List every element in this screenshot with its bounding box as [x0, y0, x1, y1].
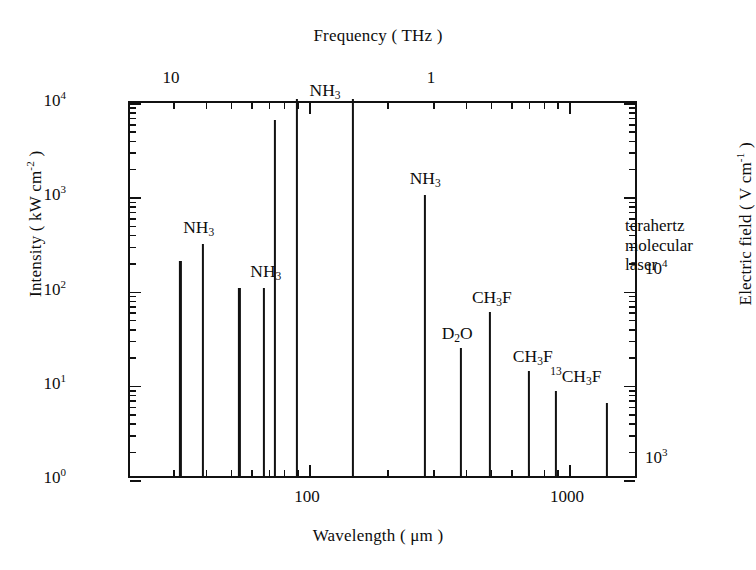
spectral-line	[263, 288, 265, 477]
tick-mark	[629, 118, 635, 120]
tick-mark	[629, 341, 635, 343]
tick-mark	[624, 480, 635, 482]
tick-mark	[130, 263, 136, 265]
tick-mark	[231, 103, 233, 109]
spectral-line	[424, 195, 426, 476]
spectral-line	[296, 99, 298, 476]
plot-area: terahertzmolecularlaser	[128, 101, 637, 478]
tick-mark	[206, 103, 208, 109]
tick-mark	[130, 103, 141, 105]
tick-mark	[130, 206, 136, 208]
tick-mark	[569, 465, 571, 476]
tick-mark	[624, 386, 635, 388]
tick-mark	[544, 470, 546, 476]
tick-mark	[387, 470, 389, 476]
tick-mark	[624, 103, 635, 105]
tick-mark	[130, 235, 136, 237]
tick-mark	[130, 197, 141, 199]
tick-mark	[130, 312, 136, 314]
x-tick-label: 100	[294, 487, 320, 507]
tick-mark	[491, 470, 493, 476]
tick-mark	[231, 470, 233, 476]
electric-field-tick-label: 104	[645, 259, 668, 279]
spectral-line	[555, 391, 557, 476]
spectral-line	[460, 348, 462, 476]
tick-mark	[629, 400, 635, 402]
terahertz-laser-spectrum-figure: Frequency ( THz ) Intensity ( kW cm-2 ) …	[0, 0, 756, 570]
tick-mark	[629, 202, 635, 204]
species-label-d2o: D2O	[442, 324, 473, 342]
tick-mark	[173, 470, 175, 476]
tick-mark	[433, 103, 435, 109]
tick-mark	[309, 465, 311, 476]
tick-mark	[269, 103, 271, 109]
tick-mark	[284, 103, 286, 109]
spectral-line	[274, 120, 276, 476]
tick-mark	[511, 103, 513, 109]
tick-mark	[629, 452, 635, 454]
tick-mark	[269, 470, 271, 476]
tick-mark	[629, 407, 635, 409]
tick-mark	[251, 103, 253, 109]
spectral-line	[528, 371, 530, 476]
tick-mark	[629, 296, 635, 298]
tick-mark	[569, 103, 571, 114]
tick-mark	[130, 407, 136, 409]
tick-mark	[629, 395, 635, 397]
species-label-nh3: NH3	[250, 262, 281, 280]
tick-mark	[629, 212, 635, 214]
tick-mark	[629, 112, 635, 114]
tick-mark	[624, 292, 635, 294]
tick-mark	[130, 395, 136, 397]
tick-mark	[629, 169, 635, 171]
species-label-nh3: NH3	[310, 81, 341, 99]
tick-mark	[130, 141, 136, 143]
tick-mark	[130, 329, 136, 331]
tick-mark	[130, 306, 136, 308]
tick-mark	[629, 107, 635, 109]
tick-mark	[624, 197, 635, 199]
spectral-line	[202, 244, 204, 476]
tick-mark	[130, 357, 136, 359]
x-tick-label: 1000	[550, 487, 584, 507]
species-label-ch3f: CH3F	[472, 288, 512, 306]
tick-mark	[130, 320, 136, 322]
tick-mark	[629, 306, 635, 308]
bottom-axis-title: Wavelength ( μm )	[0, 526, 756, 546]
tick-mark	[466, 103, 468, 109]
tick-mark	[130, 169, 136, 171]
tick-mark	[130, 107, 136, 109]
tick-mark	[629, 329, 635, 331]
tick-mark	[466, 470, 468, 476]
tick-mark	[130, 414, 136, 416]
tick-mark	[130, 112, 136, 114]
tick-mark	[130, 435, 136, 437]
tick-mark	[529, 103, 531, 109]
frequency-tick-label: 1	[427, 68, 436, 88]
spectral-line	[352, 99, 354, 476]
tick-mark	[130, 480, 141, 482]
tick-mark	[629, 124, 635, 126]
species-label-13ch3f: 13CH3F	[550, 367, 601, 385]
tick-mark	[130, 118, 136, 120]
spectral-line	[179, 261, 181, 476]
tick-mark	[511, 470, 513, 476]
spectral-line	[489, 312, 491, 476]
species-label-nh3: NH3	[183, 218, 214, 236]
top-axis-title: Frequency ( THz )	[0, 26, 756, 46]
frequency-tick-label: 10	[163, 68, 180, 88]
y-tick-label: 103	[44, 185, 67, 205]
tick-mark	[629, 206, 635, 208]
electric-field-tick-label: 103	[645, 448, 668, 468]
tick-mark	[629, 301, 635, 303]
species-label-ch3f: CH3F	[513, 347, 553, 365]
tick-mark	[629, 423, 635, 425]
tick-mark	[130, 386, 141, 388]
tick-mark	[544, 103, 546, 109]
tick-mark	[629, 312, 635, 314]
tick-mark	[557, 103, 559, 109]
tick-mark	[130, 296, 136, 298]
tick-mark	[130, 152, 136, 154]
tick-mark	[629, 435, 635, 437]
tick-mark	[629, 357, 635, 359]
